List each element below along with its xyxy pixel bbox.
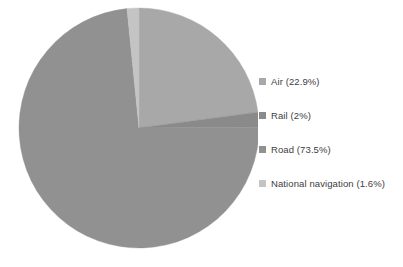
legend-swatch-national-navigation — [259, 180, 266, 187]
legend-item-rail[interactable]: Rail (2%) — [259, 98, 403, 132]
pie-slice-air[interactable] — [139, 8, 258, 128]
legend-item-national-navigation[interactable]: National navigation (1.6%) — [259, 166, 403, 200]
legend-swatch-road — [259, 146, 266, 153]
pie-chart-svg — [0, 0, 258, 267]
legend-item-road[interactable]: Road (73.5%) — [259, 132, 403, 166]
legend-label-rail: Rail (2%) — [271, 110, 311, 121]
legend-item-air[interactable]: Air (22.9%) — [259, 64, 403, 98]
pie-chart-plot-area — [0, 0, 258, 267]
pie-slice-group — [19, 8, 258, 248]
legend-label-national-navigation: National navigation (1.6%) — [271, 178, 385, 189]
legend-label-road: Road (73.5%) — [271, 144, 331, 155]
legend-label-air: Air (22.9%) — [271, 76, 320, 87]
legend-swatch-air — [259, 78, 266, 85]
pie-chart-page: Air (22.9%) Rail (2%) Road (73.5%) Natio… — [0, 0, 403, 267]
chart-legend: Air (22.9%) Rail (2%) Road (73.5%) Natio… — [259, 64, 403, 200]
legend-swatch-rail — [259, 112, 266, 119]
